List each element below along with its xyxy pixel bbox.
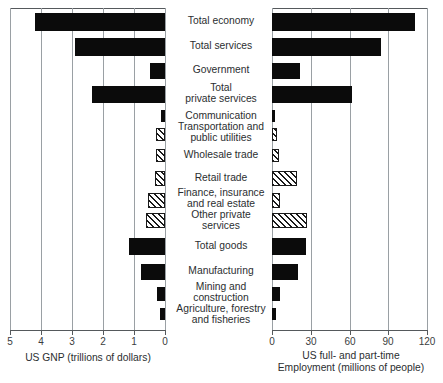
category-label-retail-trade: Retail trade [153,172,289,183]
category-label-line: Government [153,64,289,75]
right-gridline-90 [388,8,389,330]
left-gridline-1 [134,8,135,330]
right-tick-label-30: 30 [298,336,324,347]
right-gridline-60 [350,8,351,330]
left-gridline-4 [41,8,42,330]
left-gridline-5 [10,8,11,330]
category-label-line: Total goods [153,240,289,251]
right-gridline-30 [311,8,312,330]
category-label-total-services: Total services [153,40,289,51]
category-label-wholesale-trade: Wholesale trade [153,149,289,160]
category-label-line: Total [153,82,289,93]
category-label-agriculture-forestry-and-fisheries: Agriculture, forestryand fisheries [153,303,289,325]
category-label-government: Government [153,64,289,75]
category-label-finance-insurance-and-real-estate: Finance, insuranceand real estate [153,187,289,209]
left-tickmark-2 [103,330,104,335]
category-label-line: construction [153,292,289,303]
left-tickmark-4 [41,330,42,335]
category-label-manufacturing: Manufacturing [153,265,289,276]
axis-title-line: US GNP (trillions of dollars) [8,352,168,364]
category-label-total-goods: Total goods [153,240,289,251]
paired-bar-chart: 5432100306090120Total economyTotal servi… [0,0,443,383]
left-axis-title: US GNP (trillions of dollars) [8,352,168,364]
right-tick-label-120: 120 [414,336,440,347]
right-tickmark-90 [388,330,389,335]
left-bar-total-economy [35,13,165,31]
right-tick-label-60: 60 [337,336,363,347]
category-label-line: Total services [153,40,289,51]
category-label-total-economy: Total economy [153,15,289,26]
category-label-line: public utilities [153,132,289,143]
right-bar-total-economy [272,13,415,31]
left-tick-label-0: 0 [152,336,178,347]
category-label-line: Finance, insurance [153,187,289,198]
category-label-line: Wholesale trade [153,149,289,160]
category-label-line: Agriculture, forestry [153,303,289,314]
left-tick-label-4: 4 [28,336,54,347]
category-label-line: Manufacturing [153,265,289,276]
category-label-transportation-and-public-utilities: Transportation andpublic utilities [153,121,289,143]
right-tick-label-90: 90 [375,336,401,347]
category-label-line: Other private [153,209,289,220]
left-tick-label-3: 3 [59,336,85,347]
right-tickmark-30 [311,330,312,335]
category-label-line: Total economy [153,15,289,26]
category-label-line: Communication [153,110,289,121]
right-gridline-120 [427,8,428,330]
left-tick-label-2: 2 [90,336,116,347]
left-tick-label-5: 5 [0,336,23,347]
right-tick-label-0: 0 [259,336,285,347]
category-label-total-private-services: Totalprivate services [153,82,289,104]
axis-title-line: US full- and part-time [262,350,440,362]
left-tickmark-3 [72,330,73,335]
category-label-other-private-services: Other privateservices [153,209,289,231]
category-label-communication: Communication [153,110,289,121]
left-gridline-3 [72,8,73,330]
category-label-line: and real estate [153,198,289,209]
category-label-line: Transportation and [153,121,289,132]
left-tick-label-1: 1 [121,336,147,347]
right-tickmark-120 [427,330,428,335]
left-plot-top-border [10,8,166,9]
axis-title-line: Employment (millions of people) [262,362,440,374]
category-label-line: private services [153,93,289,104]
category-label-line: services [153,220,289,231]
category-label-line: Mining and [153,281,289,292]
left-tickmark-0 [165,330,166,335]
right-tickmark-60 [350,330,351,335]
category-label-mining-and-construction: Mining andconstruction [153,281,289,303]
left-bar-total-services [75,38,165,56]
right-tickmark-0 [272,330,273,335]
left-plot-baseline [10,330,166,331]
category-label-line: Retail trade [153,172,289,183]
left-gridline-2 [103,8,104,330]
category-label-line: and fisheries [153,314,289,325]
left-tickmark-5 [10,330,11,335]
left-tickmark-1 [134,330,135,335]
right-axis-title: US full- and part-timeEmployment (millio… [262,350,440,374]
